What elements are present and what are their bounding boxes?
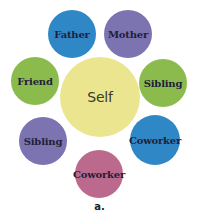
sibling-right-label: Sibling <box>144 78 182 89</box>
father-circle: Father <box>48 10 96 58</box>
coworker-right-circle: Coworker <box>130 115 180 165</box>
coworker-right-label: Coworker <box>129 135 181 146</box>
coworker-bottom-label: Coworker <box>73 169 125 180</box>
self-circle: Self <box>60 57 140 137</box>
mother-circle: Mother <box>104 10 152 58</box>
sibling-left-label: Sibling <box>24 136 62 147</box>
sibling-left-circle: Sibling <box>19 117 67 165</box>
friend-label: Friend <box>17 76 52 87</box>
sibling-right-circle: Sibling <box>139 59 187 107</box>
figure-caption: a. <box>0 201 199 212</box>
father-label: Father <box>54 29 89 40</box>
coworker-bottom-circle: Coworker <box>75 150 123 198</box>
self-label: Self <box>87 89 113 105</box>
mother-label: Mother <box>108 29 148 40</box>
friend-circle: Friend <box>11 57 59 105</box>
